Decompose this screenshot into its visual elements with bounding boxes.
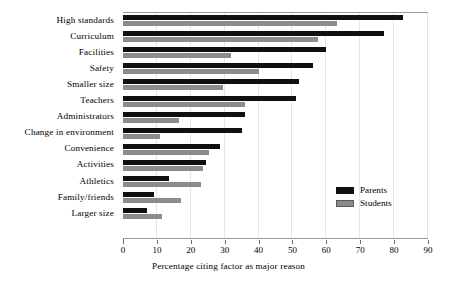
x-tick — [157, 240, 158, 244]
bar-students — [123, 150, 209, 155]
x-tick — [428, 240, 429, 244]
bar-students — [123, 134, 160, 139]
category-label: Teachers — [0, 95, 114, 105]
bar-students — [123, 102, 245, 107]
category-label: Activities — [0, 159, 114, 169]
category-label: Facilities — [0, 47, 114, 57]
category-label: Curriculum — [0, 31, 114, 41]
bar-group — [123, 77, 428, 93]
bar-parents — [123, 176, 169, 181]
bar-students — [123, 166, 203, 171]
bar-chart-figure: High standardsCurriculumFacilitiesSafety… — [0, 0, 457, 284]
x-tick — [326, 240, 327, 244]
category-label: Larger size — [0, 208, 114, 218]
bar-parents — [123, 31, 384, 36]
x-tick — [259, 240, 260, 244]
bar-group — [123, 142, 428, 158]
x-tick-label: 70 — [345, 245, 375, 256]
bar-parents — [123, 79, 299, 84]
bar-parents — [123, 63, 313, 68]
category-label: Change in environment — [0, 127, 114, 137]
bar-group — [123, 94, 428, 110]
bar-students — [123, 53, 231, 58]
bar-students — [123, 182, 201, 187]
x-tick — [394, 240, 395, 244]
x-axis-title: Percentage citing factor as major reason — [0, 261, 457, 271]
bar-group — [123, 110, 428, 126]
x-tick-label: 90 — [413, 245, 443, 256]
category-label: Smaller size — [0, 79, 114, 89]
x-tick-label: 0 — [108, 245, 138, 256]
bar-group — [123, 29, 428, 45]
x-tick — [292, 240, 293, 244]
x-tick-label: 40 — [244, 245, 274, 256]
x-tick — [191, 240, 192, 244]
x-tick — [360, 240, 361, 244]
bar-parents — [123, 112, 245, 117]
bar-students — [123, 69, 259, 74]
legend-swatch-icon — [336, 187, 354, 194]
bar-students — [123, 198, 181, 203]
x-tick-label: 80 — [379, 245, 409, 256]
bar-students — [123, 85, 223, 90]
bar-students — [123, 214, 162, 219]
x-tick — [225, 240, 226, 244]
category-label: Family/friends — [0, 192, 114, 202]
category-label: Administrators — [0, 111, 114, 121]
bar-group — [123, 61, 428, 77]
x-tick-label: 20 — [176, 245, 206, 256]
legend-swatch-icon — [336, 200, 354, 207]
x-tick-label: 10 — [142, 245, 172, 256]
category-label: High standards — [0, 15, 114, 25]
bar-students — [123, 37, 318, 42]
legend-item: Parents — [336, 184, 392, 197]
category-axis-labels: High standardsCurriculumFacilitiesSafety… — [0, 12, 118, 227]
legend-label: Students — [360, 197, 392, 210]
bar-parents — [123, 47, 326, 52]
bar-students — [123, 21, 337, 26]
legend-item: Students — [336, 197, 392, 210]
bar-parents — [123, 192, 154, 197]
bar-parents — [123, 208, 147, 213]
category-label: Safety — [0, 63, 114, 73]
bar-group — [123, 126, 428, 142]
legend-label: Parents — [360, 184, 387, 197]
category-label: Athletics — [0, 176, 114, 186]
bar-group — [123, 13, 428, 29]
category-label: Convenience — [0, 143, 114, 153]
bar-students — [123, 118, 179, 123]
bar-parents — [123, 160, 206, 165]
bar-group — [123, 45, 428, 61]
x-tick-label: 60 — [311, 245, 341, 256]
x-tick-label: 50 — [277, 245, 307, 256]
bar-parents — [123, 96, 296, 101]
bar-parents — [123, 15, 403, 20]
bar-parents — [123, 144, 220, 149]
bar-parents — [123, 128, 242, 133]
x-tick-label: 30 — [210, 245, 240, 256]
x-tick — [123, 240, 124, 244]
bar-group — [123, 158, 428, 174]
chart-legend: ParentsStudents — [336, 184, 392, 210]
